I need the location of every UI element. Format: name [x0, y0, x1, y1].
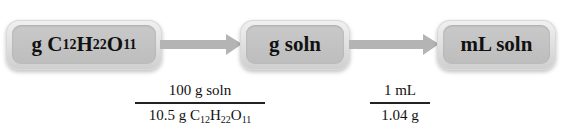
arrow-right-icon [349, 40, 439, 49]
element-h: H [210, 107, 221, 123]
node-grams-sucrose: g C12H22O11 [6, 20, 162, 70]
node-grams-sucrose-label: g C12H22O11 [12, 25, 156, 64]
numerator: 1 mL [370, 82, 430, 102]
node-grams-solution: g soln [240, 20, 350, 70]
arrow-shaft [160, 40, 228, 49]
unit-g: g [32, 32, 43, 57]
numerator: 100 g soln [135, 82, 265, 102]
conversion-factor-density: 1 mL 1.04 g [370, 82, 430, 124]
node-milliliters-solution-label: mL soln [443, 25, 550, 64]
node-grams-solution-label: g soln [246, 25, 344, 64]
element-o: O [107, 32, 123, 57]
element-c: C [190, 107, 200, 123]
denominator-amount: 10.5 g [149, 107, 187, 123]
element-o: O [231, 107, 242, 123]
arrow-right-icon [160, 40, 242, 49]
element-h: H [77, 32, 93, 57]
conversion-factor-mass-percent: 100 g soln 10.5 g C12H22O11 [135, 82, 265, 124]
subscript-o: 11 [242, 114, 252, 125]
arrow-shaft [349, 40, 425, 49]
denominator: 1.04 g [370, 104, 430, 124]
node-milliliters-solution: mL soln [437, 20, 556, 70]
denominator: 10.5 g C12H22O11 [135, 104, 265, 124]
element-c: C [47, 32, 62, 57]
subscript-h: 22 [221, 114, 231, 125]
subscript-c: 12 [200, 114, 210, 125]
